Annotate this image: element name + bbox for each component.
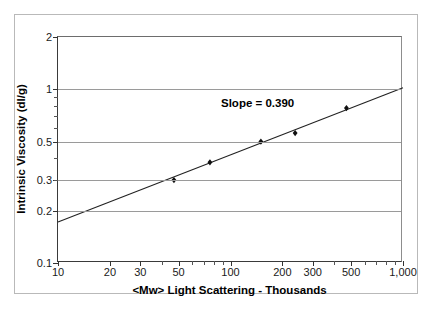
x-axis-tick-label: 200 <box>273 266 291 278</box>
y-axis-tick-major <box>53 89 58 90</box>
gridline-y <box>58 89 401 90</box>
x-axis-tick-label: 10 <box>52 266 64 278</box>
y-axis-tick-label: 0.3 <box>37 174 52 186</box>
x-axis-title: <Mw> Light Scattering - Thousands <box>57 284 402 296</box>
y-axis-tick-minor <box>54 116 58 117</box>
x-axis-tick-minor <box>365 261 366 265</box>
x-axis-tick-label: 50 <box>172 266 184 278</box>
chart-figure: 210.50.30.20.1102030501002003005001,000 … <box>0 0 441 321</box>
y-axis-tick-label: 0.1 <box>37 257 52 269</box>
x-axis-tick-minor <box>334 261 335 265</box>
y-axis-tick-label: 0.5 <box>37 136 52 148</box>
x-axis-tick-minor <box>192 261 193 265</box>
x-axis-tick-major <box>58 261 59 266</box>
data-point-marker <box>208 159 213 165</box>
plot-area: 210.50.30.20.1102030501002003005001,000 <box>57 36 402 262</box>
y-axis-tick-major <box>53 211 58 212</box>
x-axis-tick-label: 500 <box>342 266 360 278</box>
y-axis-tick-minor <box>54 180 58 181</box>
x-axis-tick-major <box>110 261 111 266</box>
slope-annotation: Slope = 0.390 <box>221 97 294 109</box>
gridline-y <box>58 180 401 181</box>
x-axis-tick-major <box>313 261 314 266</box>
x-axis-tick-minor <box>376 261 377 265</box>
y-axis-tick-minor <box>54 97 58 98</box>
x-axis-tick-minor <box>204 261 205 265</box>
y-axis-tick-label: 2 <box>46 31 52 43</box>
y-axis-tick-major <box>53 37 58 38</box>
y-axis-tick-minor <box>54 128 58 129</box>
y-axis-tick-minor <box>54 106 58 107</box>
y-axis-tick-major <box>53 142 58 143</box>
x-axis-tick-minor <box>395 261 396 265</box>
x-axis-tick-label: 30 <box>134 266 146 278</box>
gridline-y <box>58 211 401 212</box>
gridline-y <box>58 142 401 143</box>
x-axis-tick-major <box>140 261 141 266</box>
x-axis-tick-label: 20 <box>104 266 116 278</box>
x-axis-tick-minor <box>162 261 163 265</box>
y-axis-tick-label: 1 <box>46 83 52 95</box>
x-axis-tick-major <box>403 261 404 266</box>
y-axis-title: Intrinsic Viscosity (dl/g) <box>13 36 29 262</box>
x-axis-tick-major <box>179 261 180 266</box>
y-axis-tick-minor <box>54 158 58 159</box>
data-series-layer <box>58 37 403 263</box>
x-axis-tick-major <box>231 261 232 266</box>
x-axis-tick-label: 1,000 <box>389 266 417 278</box>
x-axis-tick-major <box>351 261 352 266</box>
x-axis-tick-minor <box>214 261 215 265</box>
x-axis-tick-major <box>282 261 283 266</box>
x-axis-tick-label: 300 <box>304 266 322 278</box>
y-axis-tick-label: 0.2 <box>37 205 52 217</box>
x-axis-tick-minor <box>223 261 224 265</box>
x-axis-tick-minor <box>386 261 387 265</box>
x-axis-tick-label: 100 <box>221 266 239 278</box>
